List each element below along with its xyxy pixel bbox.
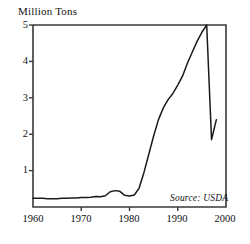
y-tick-label-1: 1 xyxy=(14,164,28,175)
x-tick-label-1960: 1960 xyxy=(13,213,53,224)
chart-figure: Million Tons 5 4 3 2 1 1960 1970 1980 19… xyxy=(0,0,250,244)
line-chart-canvas xyxy=(0,0,250,244)
y-tick-label-2: 2 xyxy=(14,128,28,139)
y-tick-label-5: 5 xyxy=(14,19,28,30)
plot-frame-border xyxy=(33,25,226,207)
data-series-line xyxy=(33,25,216,199)
x-tick-label-1990: 1990 xyxy=(157,213,197,224)
y-tick-label-3: 3 xyxy=(14,92,28,103)
x-tick-label-2000: 2000 xyxy=(205,213,245,224)
y-axis-title: Million Tons xyxy=(18,5,77,17)
source-annotation: Source: USDA xyxy=(170,193,228,203)
x-tick-label-1980: 1980 xyxy=(109,213,149,224)
y-tick-label-4: 4 xyxy=(14,55,28,66)
x-tick-label-1970: 1970 xyxy=(61,213,101,224)
plot-frame xyxy=(33,25,226,207)
